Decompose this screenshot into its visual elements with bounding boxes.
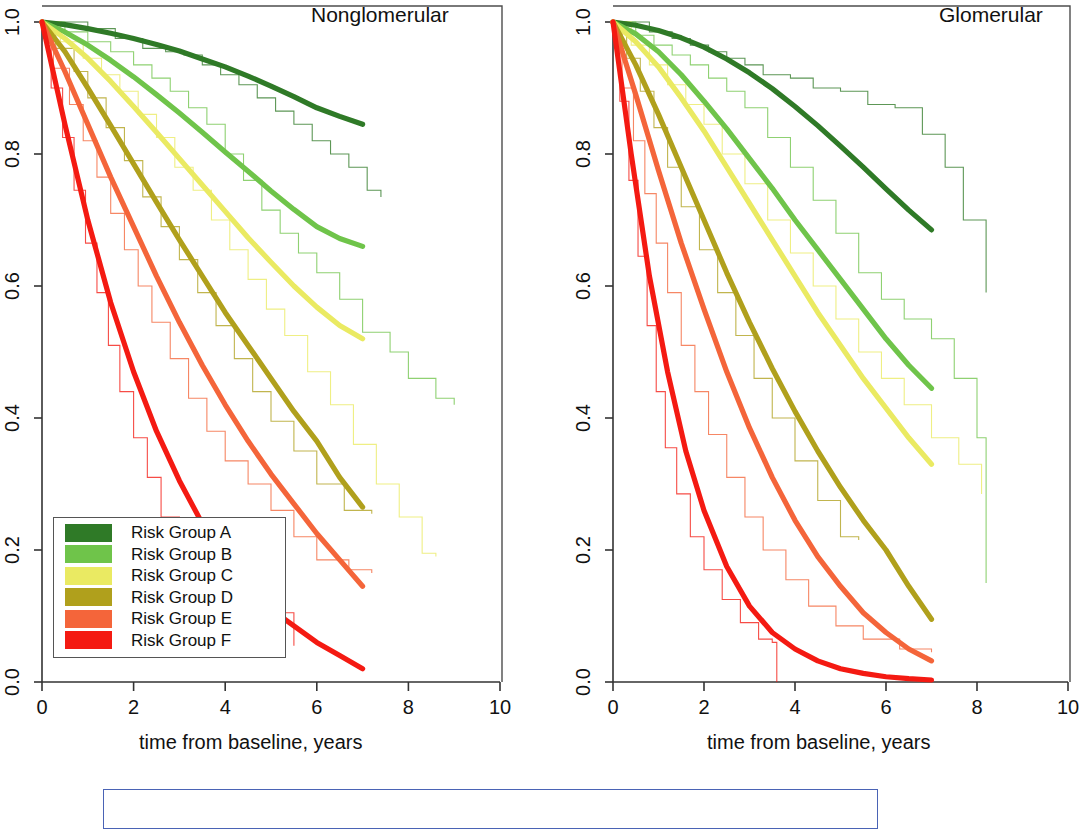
xaxis-label-glomerular: time from baseline, years — [707, 731, 930, 754]
ytick-label: 0.0 — [1, 668, 24, 696]
xtick-label: 4 — [220, 696, 231, 719]
xtick-label: 6 — [880, 696, 891, 719]
ytick-label: 0.2 — [1, 536, 24, 564]
legend: Risk Group A Risk Group B Risk Group C R… — [53, 517, 286, 658]
xtick-label: 2 — [698, 696, 709, 719]
legend-item-e: Risk Group E — [54, 608, 285, 630]
legend-label-e: Risk Group E — [131, 610, 232, 627]
ytick-label: 0.6 — [572, 272, 595, 300]
legend-item-f: Risk Group F — [54, 630, 285, 652]
legend-swatch-d — [65, 588, 112, 606]
ytick-label: 0.4 — [572, 404, 595, 432]
xtick-label: 8 — [971, 696, 982, 719]
legend-label-b: Risk Group B — [131, 546, 232, 563]
legend-item-a: Risk Group A — [54, 522, 285, 544]
xtick-label: 8 — [403, 696, 414, 719]
legend-swatch-b — [65, 545, 112, 563]
legend-swatch-e — [65, 610, 112, 628]
xtick-label: 0 — [36, 696, 47, 719]
xtick-label: 6 — [311, 696, 322, 719]
ytick-label: 1.0 — [1, 8, 24, 36]
legend-swatch-c — [65, 567, 112, 585]
ytick-label: 0.6 — [1, 272, 24, 300]
xtick-label: 10 — [489, 696, 511, 719]
xaxis-label-nonglomerular: time from baseline, years — [139, 731, 362, 754]
ytick-label: 0.0 — [572, 668, 595, 696]
risk-group-callout-box — [103, 789, 878, 829]
xtick-label: 4 — [789, 696, 800, 719]
xtick-label: 0 — [607, 696, 618, 719]
legend-label-f: Risk Group F — [131, 632, 231, 649]
plot-area-glomerular — [540, 0, 1078, 700]
xtick-label: 10 — [1057, 696, 1079, 719]
legend-label-a: Risk Group A — [131, 524, 231, 541]
ytick-label: 0.8 — [572, 140, 595, 168]
ytick-label: 0.4 — [1, 404, 24, 432]
xtick-label: 2 — [128, 696, 139, 719]
legend-swatch-f — [65, 631, 112, 649]
ytick-label: 1.0 — [572, 8, 595, 36]
legend-item-d: Risk Group D — [54, 587, 285, 609]
legend-label-d: Risk Group D — [131, 589, 233, 606]
legend-item-b: Risk Group B — [54, 544, 285, 566]
legend-label-c: Risk Group C — [131, 567, 233, 584]
ytick-label: 0.8 — [1, 140, 24, 168]
panel-glomerular: Glomerular time from baseline, years — [540, 0, 1078, 760]
ytick-label: 0.2 — [572, 536, 595, 564]
legend-item-c: Risk Group C — [54, 565, 285, 587]
legend-swatch-a — [65, 524, 112, 542]
